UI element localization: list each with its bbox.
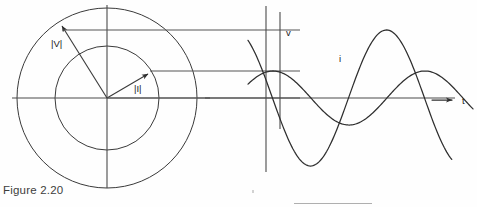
waveforms-group: v i <box>248 27 473 166</box>
page-scan-artifact-dot <box>252 190 254 193</box>
phasor-diagram-group: |V| |I| <box>12 5 210 188</box>
page-scan-artifact-line <box>294 203 372 204</box>
current-wave-label: i <box>339 53 341 64</box>
current-magnitude-label: |I| <box>134 83 142 94</box>
figure-2-20: |V| |I| t v i Figure 2.20 <box>0 0 477 207</box>
current-phasor-arrow <box>107 74 148 98</box>
vertical-reference-lines-group <box>266 6 280 172</box>
voltage-magnitude-label: |V| <box>51 38 62 49</box>
figure-canvas: |V| |I| t v i <box>0 0 477 207</box>
figure-caption: Figure 2.20 <box>3 184 63 196</box>
projection-lines-group <box>62 30 300 98</box>
voltage-phasor-arrow <box>62 26 107 98</box>
voltage-wave-label: v <box>286 27 291 38</box>
